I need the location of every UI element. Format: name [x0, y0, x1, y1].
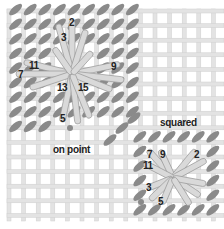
squared-step-5: 5 — [158, 197, 163, 207]
on-point-step-2: 2 — [69, 18, 74, 28]
squared-step-9: 9 — [160, 150, 165, 160]
on-point-step-5: 5 — [60, 114, 65, 124]
squared-step-11: 11 — [143, 161, 153, 171]
canvas-mesh-illustration — [0, 0, 224, 229]
squared-step-7: 7 — [147, 150, 152, 160]
squared-step-2: 2 — [194, 150, 199, 160]
on-point-step-11: 11 — [29, 61, 39, 71]
on-point-step-13: 13 — [57, 83, 67, 93]
on-point-step-15: 15 — [78, 83, 88, 93]
on-point-step-9: 9 — [111, 62, 116, 72]
on-point-step-7: 7 — [18, 70, 23, 80]
on-point-caption: on point — [53, 145, 90, 155]
squared-step-3: 3 — [146, 183, 151, 193]
stitch-diagram: 2 3 7 9 11 13 15 5 on point squared 7 9 … — [0, 0, 224, 229]
squared-caption: squared — [160, 118, 197, 128]
on-point-step-3: 3 — [61, 33, 66, 43]
